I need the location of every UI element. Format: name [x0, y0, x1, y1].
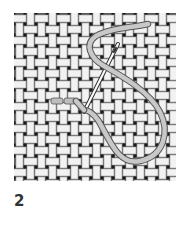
woven-canvas — [13, 12, 189, 202]
stitch-diagram — [0, 0, 188, 225]
figure-number: 2 — [14, 194, 24, 209]
